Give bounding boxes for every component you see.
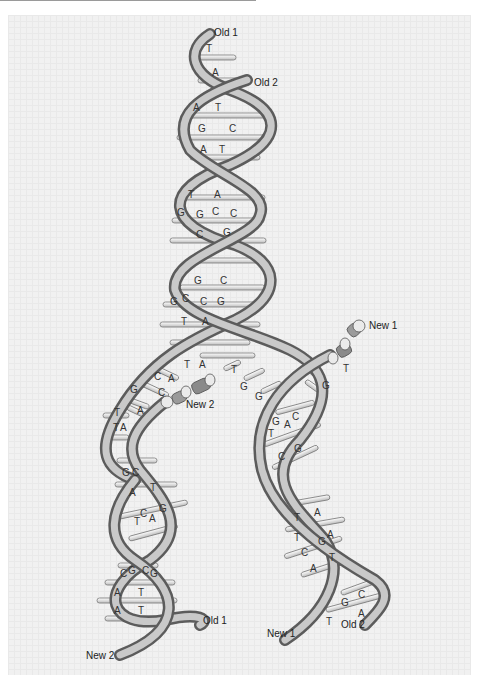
svg-text:A: A [193,102,200,113]
svg-text:G: G [217,296,225,307]
svg-text:C: C [301,547,308,558]
svg-text:G: G [194,275,202,286]
svg-text:T: T [219,144,225,155]
svg-text:T: T [188,189,194,200]
svg-text:G: G [130,384,138,395]
svg-text:A: A [120,422,127,433]
svg-text:T: T [114,407,120,418]
svg-text:A: A [327,529,334,540]
svg-text:C: C [230,208,237,219]
svg-text:G: G [177,207,185,218]
svg-text:G: G [223,227,231,238]
svg-text:T: T [184,359,190,370]
svg-text:A: A [137,405,144,416]
svg-text:C: C [200,296,207,307]
svg-text:T: T [294,512,300,523]
label-new2-bottom: New 2 [86,650,115,661]
label-old1-bottom: Old 1 [203,615,227,626]
svg-text:A: A [114,587,121,598]
svg-text:T: T [138,587,144,598]
svg-text:A: A [214,189,221,200]
svg-text:C: C [220,275,227,286]
svg-text:A: A [129,487,136,498]
svg-text:G: G [128,565,136,576]
svg-text:G: G [122,467,130,478]
svg-text:T: T [113,422,119,433]
svg-text:G: G [196,209,204,220]
label-old2-top: Old 2 [254,77,278,88]
svg-text:G: G [240,381,248,392]
svg-text:G: G [322,380,330,391]
svg-text:A: A [149,513,156,524]
svg-text:A: A [199,359,206,370]
svg-text:T: T [343,363,349,374]
svg-text:G: G [341,597,349,608]
svg-text:T: T [294,532,300,543]
svg-text:C: C [158,387,165,398]
svg-text:C: C [120,568,127,579]
svg-text:T: T [150,482,156,493]
svg-text:A: A [202,316,209,327]
svg-text:C: C [229,123,236,134]
svg-text:A: A [200,144,207,155]
svg-text:G: G [170,296,178,307]
svg-text:T: T [206,43,212,54]
svg-text:C: C [292,411,299,422]
svg-text:C: C [182,293,189,304]
svg-text:A: A [114,605,121,616]
svg-text:G: G [294,443,302,454]
label-old2-bottom: Old 2 [341,619,365,630]
svg-text:T: T [231,364,237,375]
svg-text:C: C [154,371,161,382]
svg-text:G: G [272,416,280,427]
svg-text:A: A [314,507,321,518]
svg-text:C: C [196,229,203,240]
svg-text:T: T [181,316,187,327]
svg-text:T: T [329,552,335,563]
svg-text:C: C [140,508,147,519]
svg-text:C: C [278,451,285,462]
svg-text:T: T [138,605,144,616]
svg-text:G: G [159,503,167,514]
svg-text:C: C [358,589,365,600]
svg-text:T: T [215,102,221,113]
svg-text:T: T [268,428,274,439]
svg-text:G: G [198,123,206,134]
svg-text:A: A [168,373,175,384]
label-new2-fork: New 2 [186,399,215,410]
label-new1-bottom: New 1 [267,628,296,639]
svg-text:C: C [132,467,139,478]
svg-text:A: A [358,608,365,619]
svg-text:G: G [318,536,326,547]
label-old1-top: Old 1 [214,27,238,38]
right-daughter-bases: G C T A C G T A T G A C A T G C T A [268,411,365,627]
dna-replication-diagram: Old 1 Old 2 New 1 New 2 Old 1 New 2 New … [0,0,483,685]
svg-text:C: C [142,565,149,576]
svg-text:G: G [150,568,158,579]
svg-text:A: A [284,419,291,430]
svg-text:T: T [326,616,332,627]
svg-text:T: T [134,516,140,527]
label-new1-fork: New 1 [369,320,398,331]
svg-text:A: A [212,67,219,78]
svg-text:A: A [310,563,317,574]
svg-text:C: C [212,206,219,217]
svg-text:G: G [255,391,263,402]
